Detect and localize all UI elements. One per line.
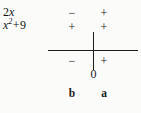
- expression-constant: 9: [20, 18, 26, 32]
- sign-chart-diagram: 2x x2+9 − + + + − + 0 b a: [0, 0, 141, 113]
- sign-cell-row1-right: +: [97, 7, 111, 19]
- interval-label-b: b: [65, 88, 79, 100]
- origin-tick-mark: [93, 32, 94, 70]
- expression-operator: +: [12, 18, 20, 32]
- sign-cell-row2-left: +: [65, 21, 79, 33]
- expression-label-x2-plus-9: x2+9: [3, 19, 26, 31]
- sign-cell-row2-right: +: [97, 21, 111, 33]
- sign-cell-row1-left: −: [65, 7, 79, 19]
- interval-label-a: a: [97, 88, 111, 100]
- sign-cell-product-left: −: [65, 55, 79, 67]
- axis-origin-label: 0: [87, 68, 100, 80]
- sign-cell-product-right: +: [97, 55, 111, 67]
